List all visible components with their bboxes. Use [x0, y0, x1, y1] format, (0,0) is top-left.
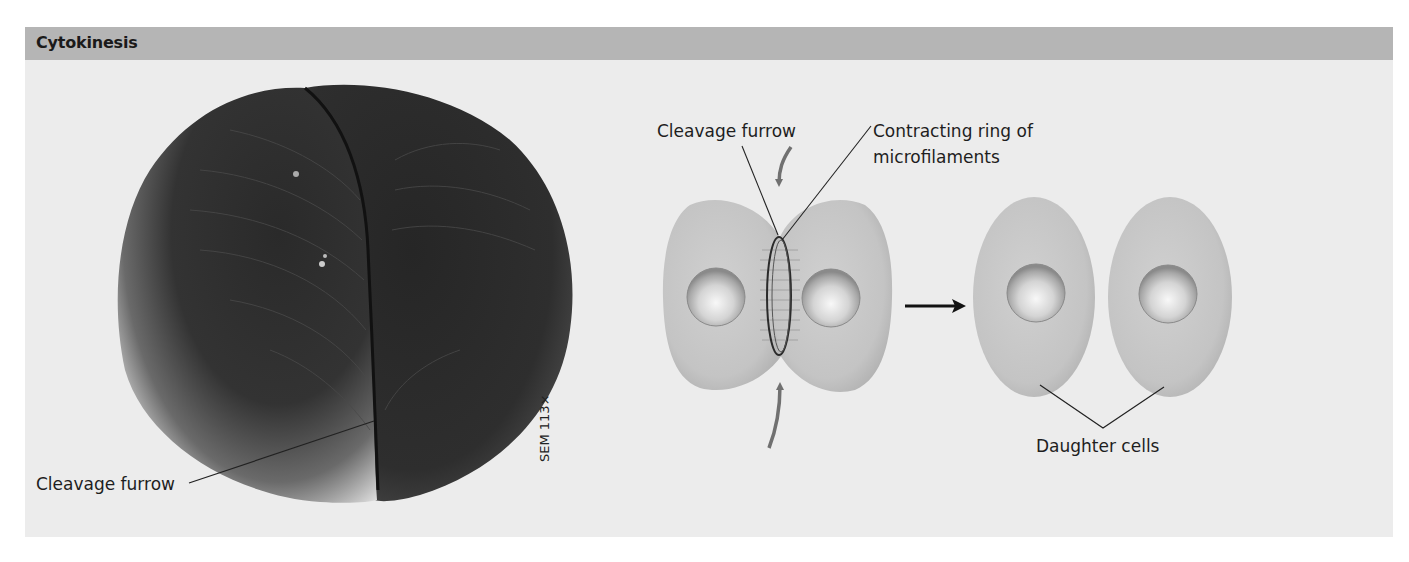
dividing-cell-left-nucleus [687, 268, 745, 326]
sem-furrow-label: Cleavage furrow [36, 474, 175, 494]
diagram-furrow-label: Cleavage furrow [657, 121, 796, 141]
daughter-cells-label: Daughter cells [1036, 436, 1160, 456]
dividing-cell [663, 126, 892, 448]
ring-label-line1: Contracting ring of [873, 121, 1034, 141]
sem-scale-label: SEM 113× [537, 394, 552, 462]
sem-micrograph [118, 85, 573, 503]
furrow-arrow-bottom-icon [769, 386, 780, 448]
ring-label-line2: microfilaments [873, 147, 1000, 167]
furrow-arrow-top-icon [779, 147, 791, 183]
daughter-cell-1-nucleus [1007, 264, 1065, 322]
daughter-cells-leader [1040, 385, 1164, 428]
figure-canvas: Cleavage furrow SEM 113× [0, 0, 1409, 562]
daughter-cell-2-nucleus [1139, 265, 1197, 323]
dividing-cell-right-nucleus [802, 269, 860, 327]
sem-left-lobe [118, 88, 377, 503]
daughter-cells [973, 197, 1232, 428]
